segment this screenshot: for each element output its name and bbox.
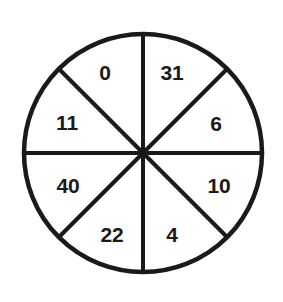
sector-40-label: 40 — [57, 174, 80, 197]
sector-11-label: 11 — [56, 111, 78, 134]
sector-6-label: 6 — [210, 112, 221, 135]
sector-0-label: 0 — [99, 61, 110, 84]
sector-22-label: 22 — [101, 223, 124, 246]
sector-4-label: 4 — [166, 223, 178, 246]
sector-10-label: 10 — [208, 174, 231, 197]
spinner-wheel-figure: 3161042240110 — [0, 0, 283, 302]
sector-31-label: 31 — [161, 61, 184, 84]
wheel-sector-group — [24, 34, 262, 272]
spinner-wheel-canvas: 3161042240110 — [0, 0, 283, 302]
